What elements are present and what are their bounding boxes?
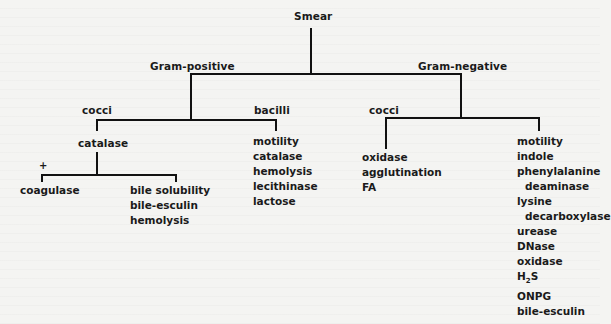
test-item: lysine — [517, 194, 611, 209]
node-gram-positive: Gram-positive — [150, 60, 235, 72]
node-gn-cocci: cocci — [369, 104, 399, 116]
test-item: hemolysis — [253, 164, 318, 179]
connector-line — [41, 174, 43, 182]
test-item: motility — [253, 134, 318, 149]
h2s-s: S — [531, 270, 539, 282]
connector-line — [96, 152, 98, 176]
node-gp-cocci: cocci — [82, 104, 112, 116]
test-item: decarboxylase — [517, 209, 611, 224]
test-item: urease — [517, 224, 611, 239]
positive-marker: + — [39, 160, 47, 171]
node-gp-bacilli: bacilli — [254, 104, 290, 116]
connector-line — [538, 117, 540, 131]
test-item: lactose — [253, 194, 318, 209]
gn-bacilli-tests: motility indole phenylalanine deaminase … — [517, 134, 611, 319]
connector-line — [385, 117, 540, 119]
node-catalase: catalase — [78, 137, 128, 149]
test-item: DNase — [517, 239, 611, 254]
connector-line — [41, 174, 177, 176]
test-item: bile solubility — [130, 183, 210, 198]
test-item: bile-esculin — [517, 304, 611, 319]
test-item: oxidase — [362, 150, 442, 165]
test-item: FA — [362, 180, 442, 195]
test-item: ONPG — [517, 289, 611, 304]
connector-line — [310, 28, 312, 74]
connector-line — [96, 119, 276, 121]
test-item: bile-esculin — [130, 198, 210, 213]
connector-line — [275, 119, 277, 131]
connector-line — [175, 174, 177, 182]
test-item: lecithinase — [253, 179, 318, 194]
test-item: deaminase — [517, 179, 611, 194]
root-node-smear: Smear — [294, 10, 332, 22]
gp-bacilli-tests: motility catalase hemolysis lecithinase … — [253, 134, 318, 209]
connector-line — [190, 73, 192, 121]
test-item: coagulase — [20, 183, 80, 198]
test-item: agglutination — [362, 165, 442, 180]
h2s-h: H — [517, 270, 526, 282]
test-item: hemolysis — [130, 213, 210, 228]
connector-line — [460, 73, 462, 119]
test-item: indole — [517, 149, 611, 164]
test-item: catalase — [253, 149, 318, 164]
test-item: oxidase — [517, 254, 611, 269]
test-item: motility — [517, 134, 611, 149]
connector-line — [190, 73, 462, 75]
coagulase-list: coagulase — [20, 183, 80, 198]
gn-cocci-tests: oxidase agglutination FA — [362, 150, 442, 195]
test-item-h2s: H2S — [517, 269, 611, 289]
connector-line — [385, 117, 387, 149]
test-item: phenylalanine — [517, 164, 611, 179]
node-gram-negative: Gram-negative — [418, 60, 507, 72]
connector-line — [96, 119, 98, 131]
catalase-negative-tests: bile solubility bile-esculin hemolysis — [130, 183, 210, 228]
